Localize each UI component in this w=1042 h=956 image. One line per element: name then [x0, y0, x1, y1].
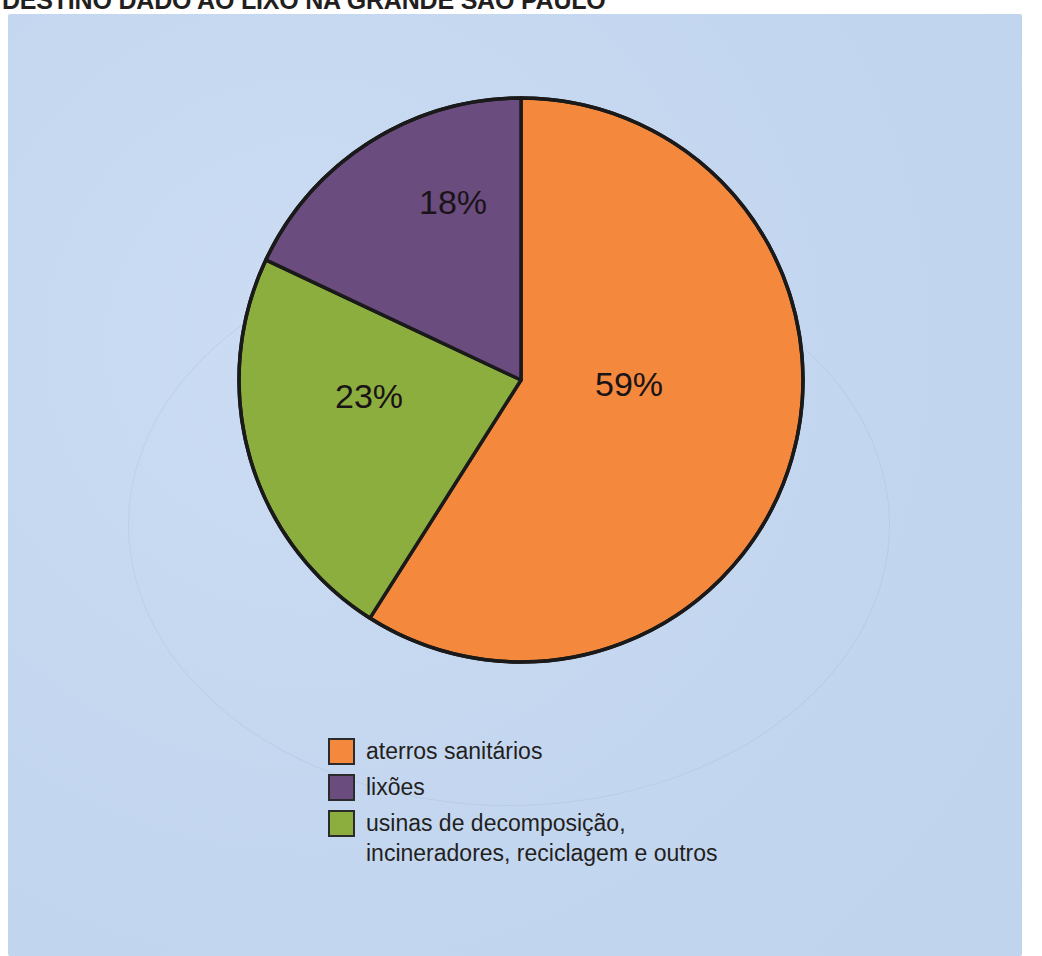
legend-label-usinas: usinas de decomposição, incineradores, r… [366, 808, 718, 868]
page-title: DESTINO DADO AO LIXO NA GRANDE SÃO PAULO [2, 0, 606, 14]
chart-panel: 59% 23% 18% aterros sanitários lixões us… [8, 14, 1022, 956]
chart-legend: aterros sanitários lixões usinas de deco… [328, 736, 718, 874]
legend-swatch-icon-lixoes [328, 774, 355, 801]
pie-chart: 59% 23% 18% [237, 96, 805, 664]
legend-swatch-icon-usinas [328, 810, 355, 837]
legend-item-aterros[interactable]: aterros sanitários [328, 736, 718, 766]
slice-label-aterros: 59% [595, 365, 663, 403]
legend-label-aterros: aterros sanitários [366, 736, 542, 766]
legend-label-lixoes: lixões [366, 772, 425, 802]
legend-item-lixoes[interactable]: lixões [328, 772, 718, 802]
legend-swatch-icon-aterros [328, 738, 355, 765]
chart-page: DESTINO DADO AO LIXO NA GRANDE SÃO PAULO… [0, 0, 1042, 956]
pie-slices [239, 98, 803, 662]
slice-label-usinas: 23% [335, 377, 403, 415]
legend-item-usinas[interactable]: usinas de decomposição, incineradores, r… [328, 808, 718, 868]
title-strip: DESTINO DADO AO LIXO NA GRANDE SÃO PAULO [0, 0, 1042, 14]
pie-svg: 59% 23% 18% [237, 96, 805, 664]
slice-label-lixoes: 18% [419, 183, 487, 221]
